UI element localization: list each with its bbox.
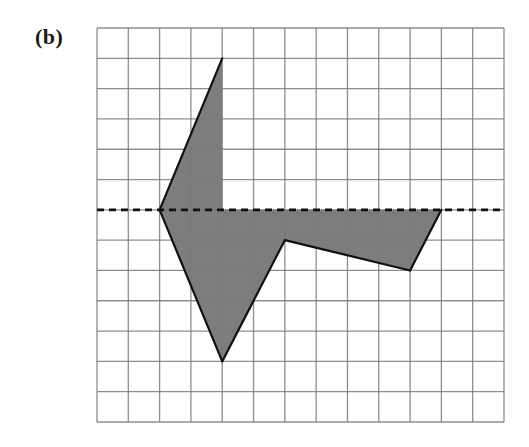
grid-diagram	[0, 0, 529, 447]
